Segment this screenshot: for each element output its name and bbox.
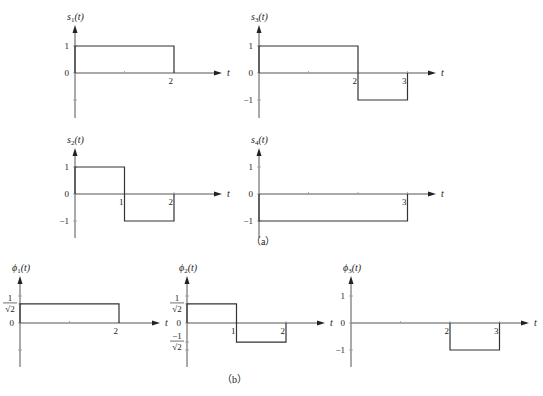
y-tick-label: −1 <box>59 216 69 226</box>
y-axis-arrow-icon <box>349 276 354 284</box>
y-tick-label: 0 <box>249 68 254 78</box>
x-tick-label: 2 <box>169 197 174 207</box>
y-tick-label: −1 <box>243 216 253 226</box>
y-tick-label: −1 <box>243 95 253 105</box>
x-tick-label: 1 <box>119 197 124 207</box>
plot-phi2: tϕ2(t)1√20−1√212 <box>170 262 333 367</box>
y-tick-label-numerator: −1 <box>172 331 182 341</box>
waveform <box>450 323 500 350</box>
y-axis-label: s2(t) <box>67 134 85 147</box>
y-tick-label-numerator: 1 <box>8 293 13 303</box>
x-tick-label: 2 <box>281 326 286 336</box>
x-tick-label: 3 <box>402 197 407 207</box>
plot-s1: ts1(t)102 <box>65 11 231 118</box>
x-axis-arrow-icon <box>214 71 222 76</box>
y-tick-label-denominator: √2 <box>5 304 14 314</box>
y-axis-arrow-icon <box>73 25 78 33</box>
waveform <box>75 46 174 73</box>
plot-phi1: tϕ1(t)1√202 <box>3 262 168 367</box>
y-tick-label-denominator: √2 <box>172 304 181 314</box>
x-tick-label: 2 <box>353 76 358 86</box>
y-tick-label: 0 <box>249 189 254 199</box>
plot-s2: ts2(t)10−112 <box>59 134 230 238</box>
x-axis-arrow-icon <box>428 71 436 76</box>
y-tick-label: 1 <box>65 41 70 51</box>
y-tick-label: 0 <box>177 318 182 328</box>
y-axis-arrow-icon <box>257 148 262 156</box>
y-axis-arrow-icon <box>185 276 190 284</box>
y-axis-arrow-icon <box>73 148 78 156</box>
x-axis-arrow-icon <box>521 321 529 326</box>
y-tick-label: 0 <box>10 318 15 328</box>
y-tick-label: 1 <box>249 162 254 172</box>
plot-s4: ts4(t)10−13 <box>243 134 444 238</box>
x-axis-label: t <box>441 67 444 78</box>
x-tick-label: 2 <box>114 326 119 336</box>
y-axis-label: s1(t) <box>67 11 85 24</box>
x-tick-label: 3 <box>402 76 407 86</box>
x-axis-arrow-icon <box>152 321 160 326</box>
signal-diagram: （a） （b） ts1(t)102ts3(t)10−123ts2(t)10−11… <box>0 0 543 396</box>
waveform <box>20 304 119 323</box>
y-tick-label: 1 <box>65 162 70 172</box>
x-tick-label: 2 <box>445 326 450 336</box>
x-axis-label: t <box>534 317 537 328</box>
y-tick-label-denominator: √2 <box>172 342 181 352</box>
x-tick-label: 3 <box>494 326 499 336</box>
y-axis-label: ϕ3(t) <box>343 262 362 275</box>
x-axis-label: t <box>330 317 333 328</box>
y-tick-label: 1 <box>249 41 254 51</box>
x-axis-arrow-icon <box>317 321 325 326</box>
x-axis-label: t <box>165 317 168 328</box>
y-tick-label: 0 <box>65 68 70 78</box>
plot-phi3: tϕ3(t)10−123 <box>335 262 537 367</box>
y-axis-label: ϕ2(t) <box>179 262 198 275</box>
plot-s3: ts3(t)10−123 <box>243 11 444 118</box>
y-tick-label: 0 <box>65 189 70 199</box>
x-tick-label: 2 <box>169 76 174 86</box>
waveform <box>259 194 408 221</box>
x-axis-label: t <box>227 67 230 78</box>
y-axis-label: ϕ1(t) <box>12 262 31 275</box>
y-axis-arrow-icon <box>257 25 262 33</box>
y-tick-label: 0 <box>341 318 346 328</box>
caption-b: （b） <box>222 374 247 385</box>
caption-a: （a） <box>251 236 275 247</box>
y-tick-label: 1 <box>341 291 346 301</box>
x-axis-label: t <box>441 188 444 199</box>
y-tick-label: −1 <box>335 345 345 355</box>
y-tick-label-numerator: 1 <box>175 293 180 303</box>
y-axis-arrow-icon <box>18 276 23 284</box>
x-axis-label: t <box>227 188 230 199</box>
x-axis-arrow-icon <box>214 192 222 197</box>
x-axis-arrow-icon <box>428 192 436 197</box>
x-tick-label: 1 <box>231 326 236 336</box>
y-axis-label: s4(t) <box>251 134 269 147</box>
y-axis-label: s3(t) <box>251 11 269 24</box>
